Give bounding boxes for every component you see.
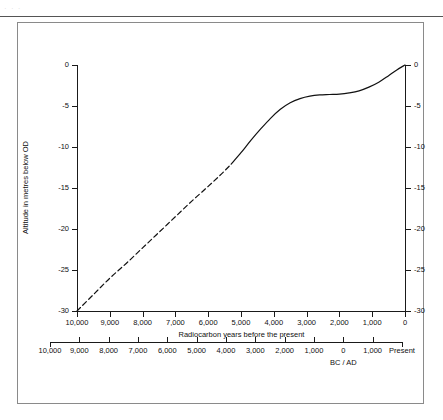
y-tick-label: -30 — [35, 307, 69, 315]
secondary-axis-tick — [255, 337, 256, 342]
y-axis-title: Altitude in metres below OD — [21, 78, 30, 298]
x-tick — [175, 312, 176, 317]
figure-frame: 0-5-10-15-20-25-30 0-5-10-15-20-25-30 10… — [17, 22, 424, 404]
y-tick-label: -10 — [35, 143, 69, 151]
x-axis-title: Radiocarbon years before the present — [77, 330, 406, 339]
y-tick-right — [406, 270, 411, 271]
secondary-axis-tick — [79, 337, 80, 342]
y-tick-label: -20 — [35, 225, 69, 233]
secondary-axis-line — [50, 342, 402, 343]
secondary-axis-tick — [285, 337, 286, 342]
secondary-axis-title: BC / AD — [313, 358, 373, 367]
y-tick-label: 0 — [35, 61, 69, 69]
x-tick — [307, 312, 308, 317]
curve-dashed — [77, 164, 231, 311]
secondary-axis: 10,0009,0008,0007,0006,0005,0004,0003,00… — [50, 342, 402, 382]
secondary-axis-tick — [226, 337, 227, 342]
secondary-axis-tick — [138, 337, 139, 342]
y-tick-label: -5 — [35, 102, 69, 110]
x-tick — [208, 312, 209, 317]
y-tick-label: -25 — [35, 266, 69, 274]
x-tick — [110, 312, 111, 317]
x-tick — [77, 312, 78, 317]
secondary-axis-label: Present — [378, 346, 426, 355]
secondary-axis-tick — [109, 337, 110, 342]
y-tick-right — [406, 147, 411, 148]
y-tick-label: -15 — [414, 184, 443, 192]
x-tick-label: 0 — [383, 318, 427, 327]
curve-solid — [231, 65, 405, 164]
y-tick-label: 0 — [414, 61, 443, 69]
secondary-axis-tick — [314, 337, 315, 342]
sea-level-curve — [77, 65, 406, 312]
page-top-rule — [0, 16, 443, 17]
x-tick — [241, 312, 242, 317]
y-tick-right — [406, 229, 411, 230]
x-tick — [274, 312, 275, 317]
x-tick — [339, 312, 340, 317]
y-tick-label: -20 — [414, 225, 443, 233]
secondary-axis-tick — [373, 337, 374, 342]
y-tick-label: -25 — [414, 266, 443, 274]
y-tick-label: -30 — [414, 307, 443, 315]
x-tick — [143, 312, 144, 317]
page-header-artifact: · · · — [4, 4, 304, 13]
y-tick-label: -5 — [414, 102, 443, 110]
y-tick-label: -10 — [414, 143, 443, 151]
x-tick — [405, 312, 406, 317]
plot-area: 0-5-10-15-20-25-30 0-5-10-15-20-25-30 10… — [77, 65, 406, 311]
x-tick — [372, 312, 373, 317]
secondary-axis-tick — [167, 337, 168, 342]
y-tick-right — [406, 311, 411, 312]
y-tick-label: -15 — [35, 184, 69, 192]
secondary-axis-tick — [343, 337, 344, 342]
y-tick-right — [406, 65, 411, 66]
secondary-axis-tick — [197, 337, 198, 342]
y-tick-right — [406, 106, 411, 107]
y-tick-right — [406, 188, 411, 189]
